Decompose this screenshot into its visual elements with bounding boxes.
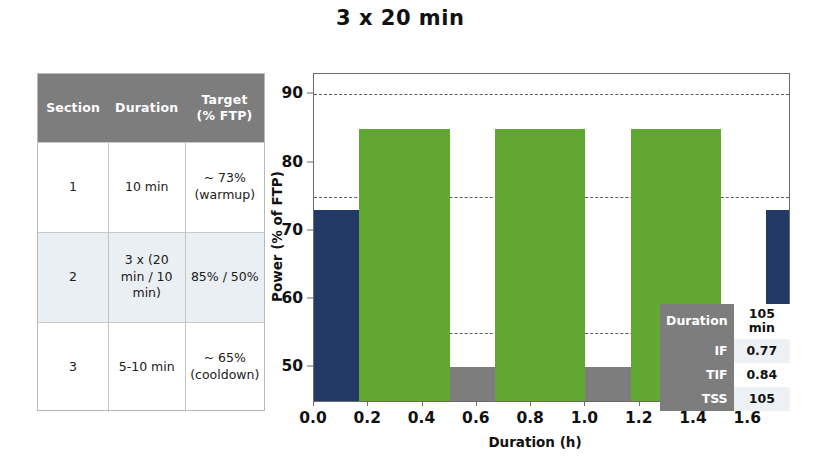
x-tick-label-0.4: 0.4	[397, 409, 447, 427]
table-row: 2 3 x (20 min / 10 min) 85% / 50%	[38, 232, 264, 322]
y-tick-label-60: 60	[263, 289, 303, 307]
x-tick-label-1.0: 1.0	[559, 409, 609, 427]
cell-target-line2: (cooldown)	[189, 367, 261, 384]
y-tick-label-90: 90	[263, 84, 303, 102]
column-header-duration: Duration	[108, 74, 185, 142]
x-tick-label-0.0: 0.0	[288, 409, 338, 427]
stats-value-if: 0.77	[734, 339, 790, 363]
table-row: 3 5-10 min ~ 65% (cooldown)	[38, 322, 264, 412]
cell-section: 3	[38, 322, 108, 412]
table-row: 1 10 min ~ 73% (warmup)	[38, 142, 264, 232]
stats-value-tif: 0.84	[734, 363, 790, 387]
workout-stats-box: Duration 105 min IF 0.77 TIF 0.84 TSS 10…	[660, 304, 790, 411]
column-header-target: Target (% FTP)	[185, 74, 264, 142]
column-header-target-line2: (% FTP)	[187, 108, 262, 124]
cell-section: 2	[38, 232, 108, 322]
table-header-row: Section Duration Target (% FTP)	[38, 74, 264, 142]
cell-duration-line1: 3 x (20	[112, 252, 182, 269]
y-tick-label-50: 50	[263, 357, 303, 375]
stats-key-if: IF	[660, 339, 734, 363]
stats-value-tss: 105	[734, 387, 790, 411]
cell-target: ~ 73% (warmup)	[185, 142, 264, 232]
stats-row: TSS 105	[660, 387, 790, 411]
stats-row: Duration 105 min	[660, 304, 790, 339]
x-tick-label-1.4: 1.4	[668, 409, 718, 427]
x-tick-label-1.2: 1.2	[614, 409, 664, 427]
cell-target-line2: (warmup)	[189, 187, 261, 204]
page-title: 3 x 20 min	[336, 6, 464, 30]
stats-key-tss: TSS	[660, 387, 734, 411]
bar-warmup	[314, 210, 359, 401]
bar-interval1	[359, 129, 449, 402]
stats-row: IF 0.77	[660, 339, 790, 363]
cell-target-line1: ~ 65%	[189, 350, 261, 367]
cell-duration: 5-10 min	[108, 322, 185, 412]
y-tick-label-80: 80	[263, 153, 303, 171]
x-tick-label-0.6: 0.6	[451, 409, 501, 427]
cell-section: 1	[38, 142, 108, 232]
column-header-target-line1: Target	[187, 92, 262, 108]
x-axis-label: Duration (h)	[255, 434, 815, 450]
cell-duration-line2: min / 10	[112, 269, 182, 286]
cell-target-line1: ~ 73%	[189, 170, 261, 187]
x-tick-label-0.8: 0.8	[505, 409, 555, 427]
y-tick-label-70: 70	[263, 221, 303, 239]
cell-duration: 10 min	[108, 142, 185, 232]
x-tick-label-0.2: 0.2	[342, 409, 392, 427]
cell-duration: 3 x (20 min / 10 min)	[108, 232, 185, 322]
bar-recovery1	[450, 367, 495, 401]
x-tick-label-1.6: 1.6	[722, 409, 772, 427]
cell-target: 85% / 50%	[185, 232, 264, 322]
stats-key-duration: Duration	[660, 304, 734, 339]
column-header-section: Section	[38, 74, 108, 142]
cell-target: ~ 65% (cooldown)	[185, 322, 264, 412]
bar-interval2	[495, 129, 585, 402]
stats-row: TIF 0.84	[660, 363, 790, 387]
stats-key-tif: TIF	[660, 363, 734, 387]
workout-power-chart: Power (% of FTP) 5060708090 0.00.20.40.6…	[255, 50, 815, 460]
stats-value-duration: 105 min	[734, 304, 790, 339]
protocol-table: Section Duration Target (% FTP) 1 10 min…	[37, 73, 265, 411]
cell-duration-line3: min)	[112, 285, 182, 302]
bar-recovery2	[585, 367, 630, 401]
gridline-90	[314, 94, 789, 95]
